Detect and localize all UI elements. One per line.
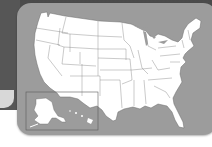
alaska bbox=[34, 98, 66, 124]
hawaii bbox=[69, 110, 93, 124]
us-map bbox=[0, 0, 212, 147]
map-subject: United States outline map bbox=[0, 0, 1, 1]
aleutians bbox=[30, 124, 38, 127]
